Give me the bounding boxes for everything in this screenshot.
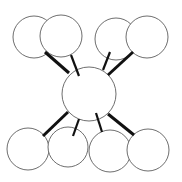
hub-node [62,67,116,121]
node-top-left-front [40,15,82,57]
node-bottom-3 [89,130,131,172]
hub-spoke-diagram [0,0,182,182]
node-bottom-2 [48,127,88,167]
hub-layer [43,52,134,136]
